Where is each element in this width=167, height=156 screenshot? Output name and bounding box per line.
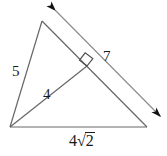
label-altitude: 4 <box>43 87 51 102</box>
base-radical: √2 <box>77 132 95 149</box>
right-angle-icon <box>80 53 93 66</box>
base-coefficient: 4 <box>69 132 77 149</box>
geometry-figure: 5 4 7 4√2 <box>0 0 167 156</box>
label-hypotenuse-dimension: 7 <box>103 49 111 64</box>
label-left-side: 5 <box>12 64 20 79</box>
base-radicand: 2 <box>85 132 95 149</box>
label-base: 4√2 <box>69 132 95 149</box>
triangle-hypotenuse <box>42 21 147 127</box>
